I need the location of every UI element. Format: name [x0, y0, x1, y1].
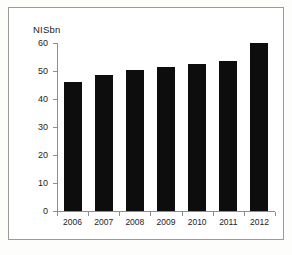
cropped-caption	[8, 246, 284, 255]
y-axis-tick	[53, 183, 58, 184]
y-axis-tick	[53, 127, 58, 128]
y-axis-tick-label: 60	[14, 38, 48, 48]
y-axis-tick-label: 10	[14, 178, 48, 188]
x-axis-label: 2011	[213, 217, 244, 227]
y-axis-tick-label: 40	[14, 94, 48, 104]
y-axis-tick-label: 50	[14, 66, 48, 76]
bar	[126, 70, 144, 211]
x-axis-tick	[119, 212, 120, 216]
x-axis-tick	[275, 212, 276, 216]
plot-area: NISbn 0102030405060 20062007200820092010…	[0, 0, 292, 255]
x-axis-tick	[150, 212, 151, 216]
x-axis-tick	[57, 212, 58, 216]
bar	[157, 67, 175, 211]
x-axis-tick	[88, 212, 89, 216]
y-axis-tick	[53, 43, 58, 44]
x-axis-label: 2008	[119, 217, 150, 227]
y-axis-title: NISbn	[33, 24, 60, 35]
x-axis-label: 2012	[244, 217, 275, 227]
y-axis-tick-label: 0	[14, 206, 48, 216]
bar	[219, 61, 237, 211]
x-axis-tick	[244, 212, 245, 216]
x-axis-tick	[213, 212, 214, 216]
y-axis-tick-label: 30	[14, 122, 48, 132]
x-axis-label: 2010	[182, 217, 213, 227]
y-axis-tick	[53, 155, 58, 156]
bar	[95, 75, 113, 211]
bar	[250, 43, 268, 211]
y-axis-tick-label: 20	[14, 150, 48, 160]
x-axis-line	[57, 211, 275, 212]
x-axis-label: 2009	[150, 217, 181, 227]
y-axis-tick	[53, 99, 58, 100]
bar	[64, 82, 82, 211]
x-axis-label: 2007	[88, 217, 119, 227]
x-axis-label: 2006	[57, 217, 88, 227]
y-axis-tick	[53, 71, 58, 72]
bar	[188, 64, 206, 211]
x-axis-tick	[182, 212, 183, 216]
figure-container: NISbn 0102030405060 20062007200820092010…	[0, 0, 292, 255]
